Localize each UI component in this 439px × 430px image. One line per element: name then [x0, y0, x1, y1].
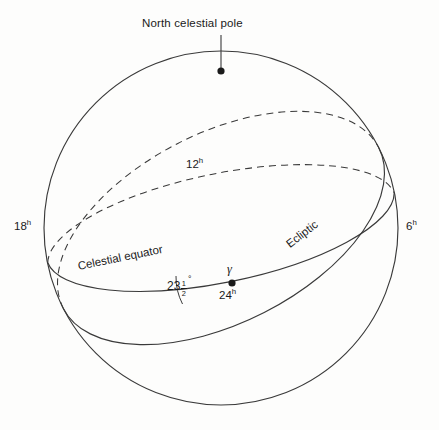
obliquity-whole-number: 23 — [167, 278, 180, 295]
hour-mark-6-label: 6h — [406, 221, 417, 233]
hour-18-value: 18 — [14, 220, 27, 232]
hour-12-value: 12 — [186, 158, 199, 170]
sphere-outline — [44, 51, 398, 405]
hour-12-unit: h — [199, 156, 203, 165]
celestial-sphere-figure: North celestial pole 12h 18h 6h 24h γ Ce… — [0, 0, 439, 430]
vernal-equinox-gamma-label: γ — [227, 263, 232, 276]
hour-24-value: 24 — [219, 289, 232, 301]
celestial-sphere-diagram — [0, 0, 439, 430]
vernal-equinox-point — [228, 279, 235, 286]
hour-mark-24-label: 24h — [219, 290, 236, 302]
celestial-equator-back-arc — [48, 165, 394, 263]
ecliptic-back-arc — [58, 111, 379, 308]
hour-mark-18-label: 18h — [14, 221, 31, 233]
obliquity-fraction: 12 — [181, 280, 187, 297]
hour-mark-12-label: 12h — [186, 159, 203, 171]
hour-6-unit: h — [412, 218, 416, 227]
obliquity-angle-label: 2312° — [167, 278, 191, 297]
celestial-equator-front-arc — [48, 193, 394, 291]
north-celestial-pole-point — [217, 67, 224, 74]
obliquity-denominator: 2 — [181, 290, 187, 297]
ecliptic-front-arc — [63, 148, 384, 345]
north-celestial-pole-label: North celestial pole — [142, 18, 243, 30]
obliquity-numerator: 1 — [181, 280, 187, 287]
hour-24-unit: h — [232, 287, 236, 296]
hour-18-unit: h — [27, 218, 31, 227]
